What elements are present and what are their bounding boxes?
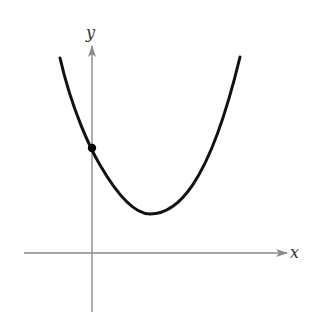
- y-axis-label: y: [85, 23, 96, 42]
- y-intercept-point: [88, 144, 96, 152]
- x-axis-label: x: [290, 243, 299, 262]
- parabola-figure: x y: [0, 0, 334, 328]
- parabola-curve: [60, 57, 240, 214]
